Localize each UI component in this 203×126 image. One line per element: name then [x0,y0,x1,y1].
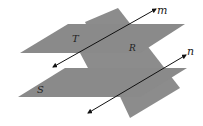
planes-diagram: T R S m n [0,0,203,126]
label-s: S [37,84,44,95]
plane-t [20,24,185,53]
label-m: m [157,4,167,17]
label-n: n [187,45,194,58]
label-r: R [128,43,136,53]
